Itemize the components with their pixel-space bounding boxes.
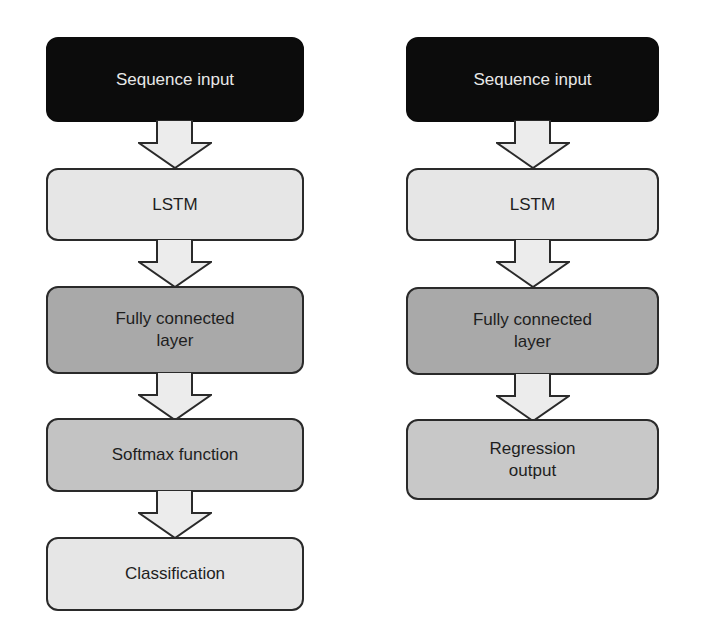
arrow-down-icon [496, 239, 570, 289]
node-sequence-input-right: Sequence input [406, 37, 659, 122]
node-classification-left: Classification [46, 537, 304, 611]
node-lstm-right: LSTM [406, 168, 659, 241]
arrow-down-icon [138, 120, 212, 170]
node-fully-connected-right: Fully connected layer [406, 287, 659, 375]
node-fully-connected-left: Fully connected layer [46, 286, 304, 374]
arrow-down-icon [496, 373, 570, 423]
node-regression-output-right: Regression output [406, 419, 659, 500]
node-softmax-left: Softmax function [46, 418, 304, 492]
arrow-down-icon [138, 490, 212, 540]
arrow-down-icon [496, 120, 570, 170]
node-lstm-left: LSTM [46, 168, 304, 241]
arrow-down-icon [138, 372, 212, 422]
node-sequence-input-left: Sequence input [46, 37, 304, 122]
arrow-down-icon [138, 239, 212, 289]
